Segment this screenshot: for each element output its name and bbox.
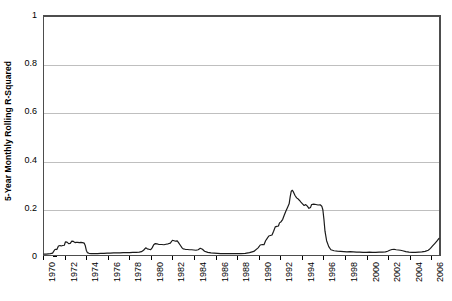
x-axis-tick-mark (323, 256, 324, 260)
x-axis-tick-label: 2004 (414, 262, 424, 282)
x-axis-tick-label: 1994 (306, 262, 316, 282)
x-axis-tick-label: 2000 (371, 262, 381, 282)
x-axis-tick-mark (216, 256, 217, 260)
y-axis-tick-label: 0.8 (14, 58, 40, 68)
x-axis-tick-label: 2002 (392, 262, 402, 282)
x-axis-tick-label: 1978 (133, 262, 143, 282)
x-axis-tick-label: 1974 (90, 262, 100, 282)
y-axis-tick-label: 0 (14, 251, 40, 261)
x-axis-tick-mark (302, 256, 303, 260)
x-axis-tick-mark (345, 256, 346, 260)
y-axis-tick-label: 0.2 (14, 203, 40, 213)
x-axis-tick-group: 1970197219741976197819801982198419861988… (43, 256, 441, 301)
chart-container: 5-Year Monthly Rolling R-Squared 00.20.4… (0, 0, 452, 301)
x-axis-tick-mark (86, 256, 87, 260)
x-axis-tick-mark (388, 256, 389, 260)
x-axis-tick-mark (151, 256, 152, 260)
x-axis-tick-label: 2006 (435, 262, 445, 282)
x-axis-tick-label: 1998 (349, 262, 359, 282)
x-axis-tick-mark (129, 256, 130, 260)
x-axis-tick-mark (280, 256, 281, 260)
x-axis-tick-label: 1980 (155, 262, 165, 282)
x-axis-tick-mark (43, 256, 44, 260)
x-axis-tick-mark (108, 256, 109, 260)
x-axis-tick-label: 1984 (198, 262, 208, 282)
y-axis-tick-label: 1 (14, 10, 40, 20)
x-axis-tick-label: 1982 (176, 262, 186, 282)
series-line-chart (44, 17, 439, 255)
y-axis-tick-group: 00.20.40.60.81 (14, 0, 40, 301)
x-axis-tick-label: 1990 (263, 262, 273, 282)
x-axis-tick-mark (367, 256, 368, 260)
x-axis-tick-label: 1976 (112, 262, 122, 282)
y-axis-title-text: 5-Year Monthly Rolling R-Squared (3, 61, 13, 201)
x-axis-tick-mark (194, 256, 195, 260)
x-axis-tick-mark (259, 256, 260, 260)
x-axis-tick-label: 1996 (327, 262, 337, 282)
x-axis-tick-mark (65, 256, 66, 260)
plot-area (43, 15, 441, 256)
y-axis-tick-label: 0.6 (14, 106, 40, 116)
x-axis-tick-mark (431, 256, 432, 260)
y-axis-tick-label: 0.4 (14, 155, 40, 165)
x-axis-tick-mark (172, 256, 173, 260)
x-axis-tick-label: 1986 (220, 262, 230, 282)
x-axis-tick-mark (237, 256, 238, 260)
x-axis-tick-label: 1992 (284, 262, 294, 282)
x-axis-tick-label: 1970 (47, 262, 57, 282)
x-axis-tick-label: 1988 (241, 262, 251, 282)
x-axis-tick-label: 1972 (69, 262, 79, 282)
x-axis-tick-mark (410, 256, 411, 260)
series-polyline (44, 190, 439, 254)
